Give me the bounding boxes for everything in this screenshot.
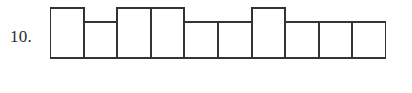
bar xyxy=(151,8,185,58)
figure-container: 10. xyxy=(0,0,412,93)
bar xyxy=(218,22,252,58)
bar xyxy=(319,22,353,58)
bar xyxy=(285,22,319,58)
bar xyxy=(84,22,118,58)
bar xyxy=(352,22,386,58)
exercise-number-label: 10. xyxy=(10,27,32,47)
bar xyxy=(50,8,84,58)
bar xyxy=(184,22,218,58)
bar-chart-svg xyxy=(50,5,386,61)
bar-chart xyxy=(50,5,386,61)
bar xyxy=(252,8,286,58)
bar xyxy=(117,8,151,58)
